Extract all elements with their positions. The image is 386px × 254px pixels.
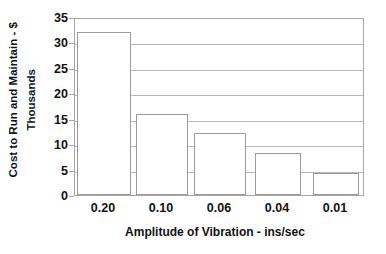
x-axis-title: Amplitude of Vibration - ins/sec [60,225,370,239]
y-axis-tick-label: 35 [44,12,68,25]
y-axis-tick-mark [69,94,74,95]
y-axis-tick-mark [69,18,74,19]
y-axis-tick-label: 30 [44,37,68,50]
x-axis-tick-label: 0.20 [74,202,132,215]
y-axis-tick-mark [69,171,74,172]
y-axis-tick-mark [69,69,74,70]
plot-area [74,18,364,196]
bar[interactable] [136,114,188,195]
x-axis-tick-label: 0.04 [248,202,306,215]
y-axis-title-line-2: Thousands [23,22,41,177]
y-axis-tick-label: 0 [44,190,68,203]
bar-chart-figure: Cost to Run and Maintain - $ Thousands 0… [0,0,386,254]
bar[interactable] [255,153,301,195]
y-axis-tick-mark [69,120,74,121]
x-axis-tick-label: 0.10 [132,202,190,215]
y-axis-tick-label: 25 [44,63,68,76]
x-axis-tick-labels: 0.200.100.060.040.01 [74,202,364,220]
y-axis-tick-label: 10 [44,139,68,152]
bar[interactable] [313,173,358,195]
bar[interactable] [194,133,245,195]
bar[interactable] [77,32,131,195]
y-axis-tick-mark [69,196,74,197]
y-axis-tick-labels: 05101520253035 [44,11,68,201]
y-axis-title-line-1: Cost to Run and Maintain - $ [5,22,23,177]
y-axis-tick-label: 15 [44,113,68,126]
y-axis-tick-mark [69,43,74,44]
y-axis-tick-mark [69,145,74,146]
y-axis-tick-label: 5 [44,164,68,177]
y-axis-tick-label: 20 [44,88,68,101]
x-axis-tick-label: 0.01 [306,202,364,215]
bars-layer [75,19,363,195]
y-axis-title: Cost to Run and Maintain - $ Thousands [0,0,46,200]
x-axis-tick-label: 0.06 [190,202,248,215]
